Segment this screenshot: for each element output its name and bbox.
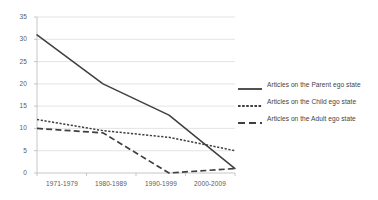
y-axis-label-35: 35 [5, 13, 27, 20]
legend-swatch-dashed-icon [238, 114, 262, 124]
y-axis-label-5: 5 [5, 147, 27, 154]
y-axis-label-25: 25 [5, 58, 27, 65]
chart-legend: Articles on the Parent ego state Article… [238, 76, 378, 127]
line-chart: 35 30 25 20 15 10 5 0 1971-1979 1980-198… [0, 0, 378, 200]
legend-item-child: Articles on the Child ego state [238, 93, 378, 110]
legend-swatch-dotted-icon [238, 97, 262, 107]
y-axis-label-20: 20 [5, 80, 27, 87]
axis-lines [37, 17, 235, 173]
legend-swatch-solid-icon [238, 80, 262, 90]
y-axis-label-30: 30 [5, 35, 27, 42]
legend-label-child: Articles on the Child ego state [267, 98, 356, 105]
legend-item-parent: Articles on the Parent ego state [238, 76, 378, 93]
legend-label-adult: Articles on the Adult ego state [267, 115, 356, 122]
y-axis-label-0: 0 [5, 169, 27, 176]
x-axis-label-2000-2009: 2000-2009 [180, 180, 240, 187]
series-line-child [37, 120, 235, 151]
y-axis-label-15: 15 [5, 102, 27, 109]
legend-label-parent: Articles on the Parent ego state [267, 81, 361, 88]
series-line-parent [37, 35, 235, 169]
y-axis-label-10: 10 [5, 124, 27, 131]
legend-item-adult: Articles on the Adult ego state [238, 110, 378, 127]
